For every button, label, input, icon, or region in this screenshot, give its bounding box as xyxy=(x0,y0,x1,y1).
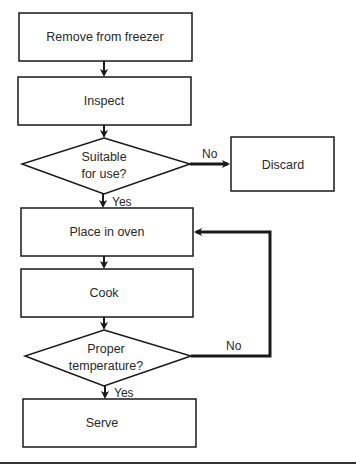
edge-temp-to-serve: Yes xyxy=(105,386,134,400)
edge-label-yes: Yes xyxy=(112,195,132,209)
edge-label-no: No xyxy=(226,339,242,353)
edge-label-no: No xyxy=(202,147,218,161)
node-remove-from-freezer: Remove from freezer xyxy=(19,13,192,61)
node-label: Place in oven xyxy=(69,225,144,239)
node-label: Remove from freezer xyxy=(46,30,163,44)
decision-label-line2: for use? xyxy=(81,167,126,181)
node-inspect: Inspect xyxy=(18,77,191,125)
decision-suitable-for-use: Suitable for use? xyxy=(22,138,190,194)
node-label: Inspect xyxy=(84,94,125,108)
edge-temp-to-oven-loop: No xyxy=(191,232,270,356)
edge-suitable-to-discard: No xyxy=(190,147,228,164)
node-place-in-oven: Place in oven xyxy=(21,208,193,256)
node-label: Cook xyxy=(89,286,119,300)
node-cook: Cook xyxy=(21,269,193,317)
flowchart: Remove from freezer Inspect Suitable for… xyxy=(0,0,356,467)
decision-proper-temperature: Proper temperature? xyxy=(25,330,191,386)
node-label: Serve xyxy=(86,416,119,430)
edge-label-yes: Yes xyxy=(114,386,134,400)
decision-label-line2: temperature? xyxy=(69,359,143,373)
decision-label-line1: Proper xyxy=(87,342,125,356)
decision-label-line1: Suitable xyxy=(81,150,126,164)
edge-suitable-to-oven: Yes xyxy=(103,194,132,209)
node-label: Discard xyxy=(262,158,304,172)
node-serve: Serve xyxy=(23,399,196,447)
node-discard: Discard xyxy=(231,137,334,191)
